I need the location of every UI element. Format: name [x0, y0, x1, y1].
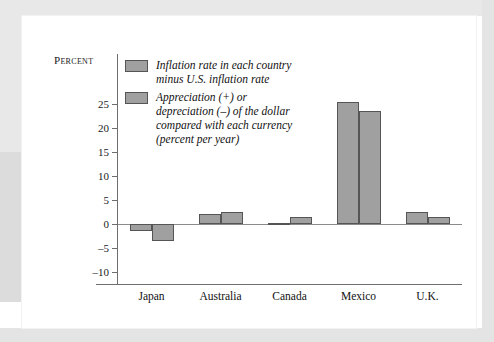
y-axis-tick [112, 224, 118, 225]
y-axis-tick-label: 0 [69, 218, 109, 230]
legend-swatch-icon [125, 92, 148, 104]
bar-australia-series2 [221, 212, 243, 224]
x-axis-label-uk: U.K. [416, 290, 438, 302]
legend-entry-2: Appreciation (+) ordepreciation (–) of t… [125, 90, 355, 146]
y-axis-tick [112, 104, 118, 105]
y-axis-tick-label: 20 [69, 122, 109, 134]
page-matte-right [482, 0, 494, 342]
y-axis-title: Percent [54, 54, 93, 66]
y-axis-line [117, 54, 118, 284]
page-matte-top [0, 0, 494, 16]
chart-legend: Inflation rate in each countryminus U.S.… [125, 58, 355, 150]
y-axis-tick [112, 272, 118, 273]
legend-entry-label: Inflation rate in each countryminus U.S.… [156, 58, 291, 86]
bar-japan-series2 [152, 224, 174, 241]
page-matte-bottom [0, 328, 494, 342]
screenshot-root: Percent 2520151050–5–10 JapanAustraliaCa… [0, 0, 494, 342]
legend-swatch-icon [125, 60, 148, 72]
legend-entry-label: Appreciation (+) ordepreciation (–) of t… [156, 90, 292, 146]
bar-japan-series1 [130, 224, 152, 231]
page-matte-left-upper [0, 0, 22, 152]
x-axis-label-canada: Canada [272, 290, 306, 302]
page-matte-left-notch [0, 152, 22, 302]
y-axis-tick [112, 176, 118, 177]
x-axis-rule [96, 284, 462, 285]
x-axis-label-australia: Australia [199, 290, 241, 302]
x-axis-label-japan: Japan [138, 290, 164, 302]
figure-card: Percent 2520151050–5–10 JapanAustraliaCa… [22, 16, 476, 328]
bar-australia-series1 [199, 214, 221, 224]
bar-canada-series2 [290, 217, 312, 224]
bar-uk-series2 [428, 217, 450, 224]
legend-entry-1: Inflation rate in each countryminus U.S.… [125, 58, 355, 86]
bar-mexico-series2 [359, 111, 381, 224]
y-axis-tick-label: –5 [69, 242, 109, 254]
y-axis-tick-label: 5 [69, 194, 109, 206]
bar-uk-series1 [406, 212, 428, 224]
y-axis-tick-label: 25 [69, 98, 109, 110]
x-axis-label-mexico: Mexico [341, 290, 376, 302]
y-axis-tick-label: –10 [69, 266, 109, 278]
y-axis-tick-label: 15 [69, 146, 109, 158]
y-axis-tick [112, 200, 118, 201]
y-axis-tick [112, 128, 118, 129]
bar-canada-series1 [268, 223, 290, 225]
bar-chart-plot: Percent 2520151050–5–10 JapanAustraliaCa… [22, 16, 476, 328]
y-axis-tick [112, 152, 118, 153]
y-axis-tick-label: 10 [69, 170, 109, 182]
y-axis-tick [112, 248, 118, 249]
